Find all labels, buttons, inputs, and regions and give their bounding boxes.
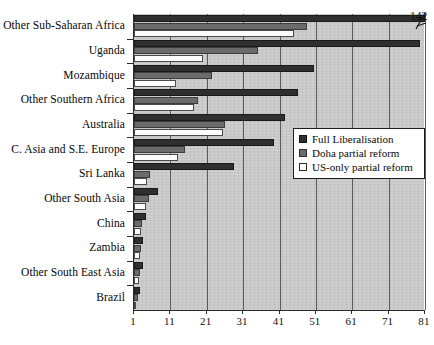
y-axis-label-other-sub-saharan-africa: Other Sub-Saharan Africa (3, 20, 125, 32)
x-tick-11 (169, 310, 170, 314)
legend-label-doha-partial-reform: Doha partial reform (312, 148, 399, 159)
bar (134, 104, 194, 111)
bar (134, 89, 298, 96)
x-tick-label-61: 61 (336, 315, 366, 327)
x-tick-label-1: 1 (118, 315, 148, 327)
bar (134, 72, 212, 79)
y-tick (127, 187, 133, 188)
y-tick (127, 63, 133, 64)
bar (134, 114, 285, 121)
bar (134, 154, 178, 161)
legend-item-doha-partial-reform[interactable]: Doha partial reform (299, 146, 420, 160)
bar (134, 23, 307, 30)
y-tick (127, 137, 133, 138)
y-axis-label-brazil: Brazil (96, 292, 125, 304)
legend-swatch-icon-doha-partial-reform (299, 149, 307, 157)
bar (134, 228, 141, 235)
bar-group (134, 63, 424, 88)
y-tick (127, 39, 133, 40)
x-tick-61 (351, 310, 352, 314)
bar-chart: 11121314151617181 Other Sub-Saharan Afri… (0, 0, 434, 345)
bar (134, 252, 140, 259)
value-annotation-142: 142 (410, 10, 427, 22)
bar (134, 188, 158, 195)
y-axis-label-other-south-asia: Other South Asia (44, 193, 125, 205)
bar (134, 195, 149, 202)
bar-group (134, 14, 424, 39)
bar-group (134, 261, 424, 286)
bar (134, 302, 136, 309)
bar (134, 203, 146, 210)
y-tick (127, 113, 133, 114)
bar (134, 55, 203, 62)
bar (134, 178, 147, 185)
y-axis-label-other-southern-africa: Other Southern Africa (21, 94, 125, 106)
chart-legend: Full Liberalisation Doha partial reform … (293, 128, 425, 179)
bar (134, 171, 150, 178)
legend-label-us-only-partial-reform: US-only partial reform (312, 162, 413, 173)
y-tick (127, 261, 133, 262)
x-tick-31 (242, 310, 243, 314)
legend-item-full-liberalisation[interactable]: Full Liberalisation (299, 132, 420, 146)
y-tick (127, 88, 133, 89)
x-tick-81 (424, 310, 425, 314)
bar (134, 213, 146, 220)
bar-group (134, 211, 424, 236)
bar (134, 146, 185, 153)
legend-swatch-icon-full-liberalisation (299, 135, 307, 143)
y-axis-label-zambia: Zambia (89, 242, 125, 254)
bar (134, 30, 294, 37)
bar (134, 220, 142, 227)
legend-item-us-only-partial-reform[interactable]: US-only partial reform (299, 160, 420, 174)
bar (134, 47, 258, 54)
bar (134, 277, 139, 284)
y-axis-label-australia: Australia (82, 119, 125, 131)
bar (134, 139, 274, 146)
x-tick-41 (279, 310, 280, 314)
bar (134, 121, 225, 128)
bar-group (134, 88, 424, 113)
bar (134, 80, 176, 87)
x-tick-label-21: 21 (191, 315, 221, 327)
x-tick-21 (206, 310, 207, 314)
bar-group (134, 187, 424, 212)
bar (134, 97, 198, 104)
x-tick-label-11: 11 (154, 315, 184, 327)
bar-group (134, 39, 424, 64)
bar (134, 40, 420, 47)
bar (134, 262, 143, 269)
bar (134, 269, 140, 276)
x-tick-label-71: 71 (373, 315, 403, 327)
y-tick (127, 162, 133, 163)
y-axis-line (133, 14, 134, 311)
bar (134, 15, 425, 22)
y-tick (127, 236, 133, 237)
y-axis-label-mozambique: Mozambique (63, 70, 125, 82)
bar (134, 245, 141, 252)
y-axis-label-c-asia-and-s-e-europe: C. Asia and S.E. Europe (11, 144, 125, 156)
y-axis-label-china: China (97, 218, 125, 230)
x-tick-label-81: 81 (409, 315, 434, 327)
y-tick (127, 211, 133, 212)
y-axis-label-uganda: Uganda (89, 45, 125, 57)
x-tick-label-31: 31 (227, 315, 257, 327)
y-tick (127, 285, 133, 286)
x-tick-label-41: 41 (264, 315, 294, 327)
bar (134, 287, 140, 294)
x-tick-label-51: 51 (300, 315, 330, 327)
x-tick-51 (315, 310, 316, 314)
bar (134, 163, 234, 170)
bar (134, 65, 314, 72)
y-axis-label-sri-lanka: Sri Lanka (79, 168, 125, 180)
bar (134, 237, 143, 244)
legend-swatch-icon-us-only-partial-reform (299, 163, 307, 171)
gridline-81 (425, 14, 426, 310)
x-tick-71 (388, 310, 389, 314)
y-axis-label-other-south-east-asia: Other South East Asia (21, 267, 125, 279)
legend-label-full-liberalisation: Full Liberalisation (312, 134, 394, 145)
bar-group (134, 236, 424, 261)
bar (134, 129, 223, 136)
bar (134, 294, 138, 301)
x-tick-1 (133, 310, 134, 314)
bar-group (134, 285, 424, 310)
